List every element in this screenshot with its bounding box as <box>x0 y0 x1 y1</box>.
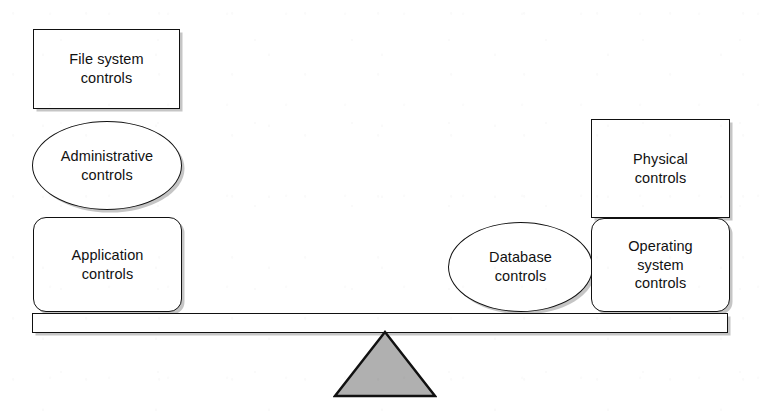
node-operating-system-controls[interactable]: Operating system controls <box>591 218 730 312</box>
node-label: Application controls <box>65 246 149 283</box>
node-label: File system controls <box>63 50 149 87</box>
fulcrum-triangle <box>333 330 437 398</box>
diagram-canvas: File system controls Administrative cont… <box>0 0 760 412</box>
node-database-controls[interactable]: Database controls <box>448 222 593 312</box>
node-label: Operating system controls <box>622 237 699 293</box>
node-application-controls[interactable]: Application controls <box>33 217 182 312</box>
node-label: Database controls <box>483 248 558 285</box>
node-label: Administrative controls <box>55 147 159 184</box>
node-physical-controls[interactable]: Physical controls <box>591 119 730 218</box>
node-administrative-controls[interactable]: Administrative controls <box>32 121 182 210</box>
fulcrum-triangle-icon <box>333 330 437 398</box>
node-file-system-controls[interactable]: File system controls <box>33 29 180 109</box>
node-label: Physical controls <box>627 150 694 187</box>
